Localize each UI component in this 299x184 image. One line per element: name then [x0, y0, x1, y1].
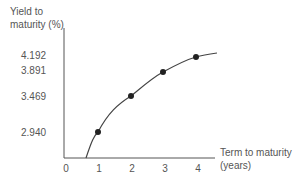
- data-point-3: [160, 69, 166, 75]
- yield-curve: [86, 53, 217, 158]
- data-point-1: [95, 129, 101, 135]
- chart-plot: [0, 0, 299, 184]
- data-point-2: [128, 93, 134, 99]
- data-point-4: [193, 54, 199, 60]
